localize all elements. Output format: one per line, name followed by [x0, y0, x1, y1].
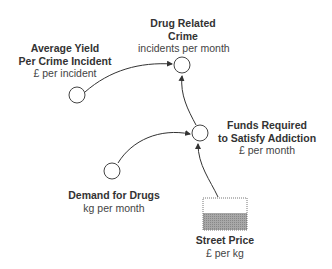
- label-demand-for-drugs: Demand for Drugs kg per month: [64, 189, 164, 214]
- title-line2: to Satisfy Addiction: [217, 132, 317, 145]
- node-street-price[interactable]: [203, 198, 247, 230]
- link-price-to-funds: [198, 144, 218, 197]
- node-drug-related-crime[interactable]: [174, 57, 190, 73]
- node-funds-required[interactable]: [192, 125, 208, 141]
- link-funds-to-crime: [182, 76, 196, 125]
- title-line2: Crime: [138, 30, 228, 43]
- title-line1: Average Yield: [15, 42, 115, 55]
- unit: £ per kg: [185, 247, 265, 260]
- link-demand-to-funds: [118, 132, 190, 163]
- label-average-yield: Average Yield Per Crime Incident £ per i…: [15, 42, 115, 80]
- node-average-yield[interactable]: [69, 87, 85, 103]
- label-street-price: Street Price £ per kg: [185, 234, 265, 259]
- unit: kg per month: [64, 202, 164, 215]
- unit: incidents per month: [138, 42, 228, 55]
- title-line1: Funds Required: [217, 119, 317, 132]
- unit: £ per month: [217, 144, 317, 157]
- title-line2: Per Crime Incident: [15, 55, 115, 68]
- unit: £ per incident: [15, 67, 115, 80]
- node-demand-for-drugs[interactable]: [104, 163, 120, 179]
- title-line1: Demand for Drugs: [64, 189, 164, 202]
- label-drug-related-crime: Drug Related Crime incidents per month: [138, 17, 228, 55]
- title-line1: Drug Related: [138, 17, 228, 30]
- title-line1: Street Price: [185, 234, 265, 247]
- label-funds-required: Funds Required to Satisfy Addiction £ pe…: [217, 119, 317, 157]
